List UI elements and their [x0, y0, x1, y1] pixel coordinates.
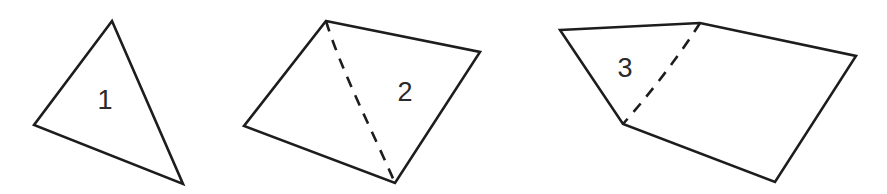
polygon-diagram: 1 2 3 [0, 0, 887, 194]
polygon-shape-2 [244, 21, 480, 183]
shape-label-1: 1 [97, 85, 112, 115]
shape-label-3: 3 [617, 53, 632, 83]
shape-group-3: 3 [560, 23, 856, 182]
shape-group-1: 1 [34, 21, 183, 184]
shape-group-2: 2 [244, 21, 480, 183]
shape-label-2: 2 [397, 77, 412, 107]
figure-container: 1 2 3 [0, 0, 887, 194]
polygon-shape-3 [560, 23, 856, 182]
